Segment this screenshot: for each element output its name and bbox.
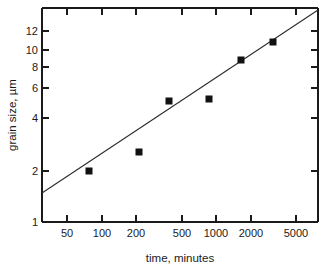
axis-frame <box>42 8 318 222</box>
y-tick-label: 4 <box>32 112 38 124</box>
x-tick-label: 100 <box>93 227 111 239</box>
x-tick-label: 2000 <box>239 227 263 239</box>
x-tick-label: 50 <box>61 227 73 239</box>
y-tick-marks <box>42 31 318 222</box>
x-tick-label: 5000 <box>284 227 308 239</box>
y-tick-label: 6 <box>32 82 38 94</box>
power-law-fit-line <box>42 10 318 193</box>
data-point <box>86 168 93 175</box>
data-point <box>238 57 245 64</box>
grain-size-vs-time-plot: 1 2 4 6 8 10 12 50 100 <box>0 0 330 274</box>
data-point <box>166 98 173 105</box>
x-axis-title: time, minutes <box>146 252 215 264</box>
y-tick-label: 12 <box>26 25 38 37</box>
data-point <box>206 96 213 103</box>
data-point <box>136 149 143 156</box>
y-tick-label: 1 <box>32 216 38 228</box>
x-tick-label: 500 <box>173 227 191 239</box>
y-axis-title: grain size, µm <box>6 79 18 151</box>
x-tick-label: 1000 <box>204 227 228 239</box>
x-tick-labels: 50 100 200 500 1000 2000 5000 <box>61 227 308 239</box>
data-series-markers <box>86 39 277 175</box>
y-tick-label: 8 <box>32 61 38 73</box>
x-tick-label: 200 <box>127 227 145 239</box>
y-tick-labels: 1 2 4 6 8 10 12 <box>26 25 38 228</box>
data-point <box>270 39 277 46</box>
x-tick-marks <box>67 8 296 222</box>
y-tick-label: 10 <box>26 44 38 56</box>
chart-figure: 1 2 4 6 8 10 12 50 100 <box>0 0 330 274</box>
y-tick-label: 2 <box>32 165 38 177</box>
